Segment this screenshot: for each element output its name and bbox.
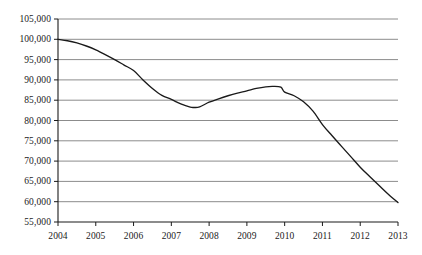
- x-axis-tick-label: 2010: [265, 231, 305, 241]
- x-axis-tick-label: 2012: [340, 231, 380, 241]
- x-axis-tick-label: 2013: [378, 231, 418, 241]
- x-axis-tick-label: 2006: [114, 231, 154, 241]
- line-chart: 105,000100,00095,00090,00085,00080,00075…: [0, 0, 422, 255]
- x-axis-tick-label: 2007: [151, 231, 191, 241]
- x-axis-labels: 2004200520062007200820092010201120122013: [0, 0, 422, 255]
- x-axis-tick-label: 2004: [38, 231, 78, 241]
- x-axis-tick-label: 2005: [76, 231, 116, 241]
- x-axis-tick-label: 2011: [302, 231, 342, 241]
- x-axis-tick-label: 2009: [227, 231, 267, 241]
- x-axis-tick-label: 2008: [189, 231, 229, 241]
